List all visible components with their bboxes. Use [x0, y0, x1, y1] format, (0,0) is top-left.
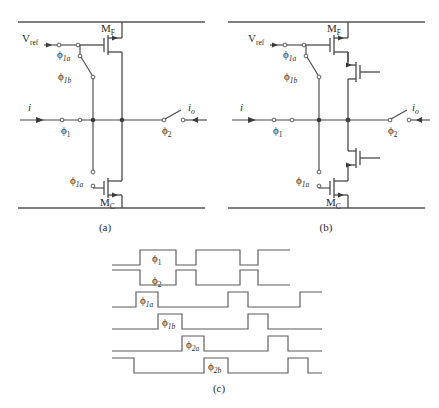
label-phi1a-top-a: ϕ1a [57, 48, 71, 63]
switch-phi1a-bot-a[interactable] [91, 170, 104, 188]
switch-phi1b-a[interactable] [78, 54, 95, 79]
label-phi1-a: ϕ1 [61, 124, 71, 139]
label-input-current-a: i [28, 101, 31, 113]
waveform-phi2a [112, 336, 322, 351]
label-phi1-b: ϕ1 [273, 124, 283, 139]
label-phi1a-timing: ϕ1a [140, 294, 154, 309]
vref-arrow-b [272, 43, 278, 48]
figure-root: MF Vref ϕ1a ϕ1b i ϕ1 [0, 0, 439, 408]
mc-type-arrow-b [338, 193, 344, 198]
mc-type-arrow-a [112, 193, 118, 198]
waveform-phi1 [112, 250, 290, 265]
label-output-current-a: io [188, 101, 195, 116]
switch-phi1a-top-a[interactable] [56, 43, 80, 47]
label-mf-b: MF [327, 22, 341, 37]
caption-b: (b) [320, 221, 333, 234]
switch-phi1a-bot-b[interactable] [317, 170, 330, 188]
label-phi2-a: ϕ2 [162, 124, 172, 139]
input-arrow-a [36, 117, 44, 123]
label-phi1b-a: ϕ1b [58, 70, 72, 85]
junction-storage-a [91, 118, 96, 123]
label-vref-a: Vref [22, 32, 39, 47]
junction-storage-b [317, 118, 322, 123]
label-phi1-timing: ϕ1 [152, 252, 162, 267]
caption-a: (a) [99, 221, 112, 234]
figure-canvas: MF Vref ϕ1a ϕ1b i ϕ1 [0, 0, 439, 408]
cascode-lower-type-arrow-b [346, 163, 352, 168]
label-phi2b-timing: ϕ2b [208, 360, 222, 375]
label-phi1a-top-b: ϕ1a [283, 48, 297, 63]
input-arrow-b [248, 117, 256, 123]
waveform-phi1b [112, 314, 322, 329]
output-arrow-b [416, 117, 422, 123]
switch-phi2-a[interactable] [162, 110, 185, 122]
label-phi2-b: ϕ2 [388, 124, 398, 139]
cascode-transistor-upper-b [346, 52, 380, 120]
caption-c: (c) [213, 382, 226, 395]
cascode-transistor-lower-b [346, 120, 380, 181]
label-phi1a-bot-b: ϕ1a [296, 174, 310, 189]
label-mf-a: MF [101, 22, 115, 37]
switch-phi2-b[interactable] [388, 110, 411, 122]
label-input-current-b: i [240, 101, 243, 113]
vref-arrow-a [46, 43, 52, 48]
label-output-current-b: io [412, 101, 419, 116]
cascode-upper-type-arrow-b [346, 63, 352, 68]
transistor-mc-a [104, 120, 122, 208]
label-vref-b: Vref [248, 32, 265, 47]
transistor-mf-a [80, 22, 122, 120]
circuit-b: MF Vref ϕ1a ϕ1b [228, 22, 430, 234]
circuit-a: MF Vref ϕ1a ϕ1b i ϕ1 [18, 22, 207, 234]
label-phi1a-bot-a: ϕ1a [70, 174, 84, 189]
label-phi2-timing: ϕ2 [152, 274, 162, 289]
timing-diagram: ϕ1 ϕ2 ϕ1a ϕ1b ϕ2a ϕ2b (c) [112, 250, 322, 395]
switch-phi1b-b[interactable] [304, 54, 321, 79]
label-phi1b-timing: ϕ1b [162, 316, 176, 331]
output-arrow-a [192, 117, 198, 123]
waveform-phi2 [112, 270, 290, 285]
switch-phi1a-top-b[interactable] [282, 43, 306, 47]
label-phi1b-b: ϕ1b [284, 70, 298, 85]
label-phi2a-timing: ϕ2a [186, 338, 200, 353]
